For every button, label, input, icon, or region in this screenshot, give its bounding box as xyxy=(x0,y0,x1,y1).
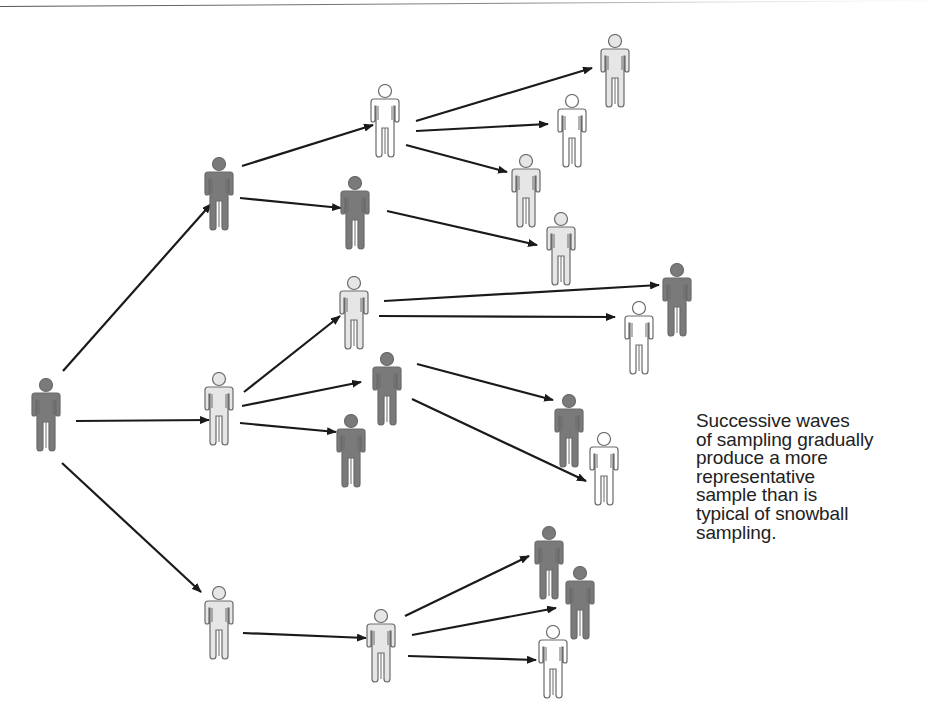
person-icon xyxy=(535,527,563,600)
arrow-connector xyxy=(76,420,209,421)
person-icon xyxy=(205,158,233,231)
arrow-connector xyxy=(384,285,659,301)
arrow-connector xyxy=(63,204,211,371)
arrow-connector xyxy=(244,316,340,392)
person-icon xyxy=(205,587,233,660)
arrow-connector xyxy=(242,382,361,406)
caption-text: Successive waves of sampling gradually p… xyxy=(696,412,948,542)
person-icon xyxy=(337,415,365,488)
person-icon xyxy=(547,213,575,286)
arrow-connector xyxy=(62,463,201,592)
arrow-connector xyxy=(240,423,336,432)
person-icon xyxy=(340,277,368,350)
arrow-connector xyxy=(406,145,507,172)
person-icon xyxy=(205,373,233,446)
person-icon xyxy=(32,379,60,452)
person-icon xyxy=(555,395,583,468)
arrow-connector xyxy=(412,608,556,635)
caption-line: Successive waves xyxy=(696,412,948,431)
arrow-connector xyxy=(405,556,529,616)
arrow-connector xyxy=(242,125,373,166)
arrow-connector xyxy=(379,316,615,317)
person-icon xyxy=(367,610,395,683)
person-icon xyxy=(558,95,586,168)
people-layer xyxy=(32,35,691,699)
person-icon xyxy=(590,433,618,506)
arrow-connector xyxy=(387,211,537,245)
person-icon xyxy=(539,626,567,699)
snowball-sampling-diagram xyxy=(0,0,948,724)
arrow-connector xyxy=(416,124,548,131)
person-icon xyxy=(663,264,691,337)
person-icon xyxy=(566,567,594,640)
arrow-connector xyxy=(240,198,341,208)
arrow-connector xyxy=(408,656,536,660)
caption-line: typical of snowball xyxy=(696,505,948,524)
arrow-connector xyxy=(243,633,366,638)
person-icon xyxy=(373,353,401,426)
person-icon xyxy=(625,302,653,375)
caption-line: sampling. xyxy=(696,524,948,543)
person-icon xyxy=(341,177,369,250)
person-icon xyxy=(601,35,629,108)
person-icon xyxy=(512,155,540,228)
caption-line: produce a more xyxy=(696,449,948,468)
person-icon xyxy=(371,85,399,158)
arrow-connector xyxy=(417,364,553,400)
